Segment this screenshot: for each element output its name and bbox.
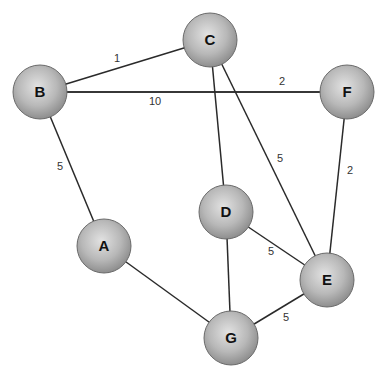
node-label: E bbox=[322, 271, 332, 288]
edge-weight-label: 2 bbox=[347, 164, 353, 176]
node-g: G bbox=[204, 311, 258, 365]
edge-weight-label: 5 bbox=[283, 311, 289, 323]
edges-layer bbox=[40, 40, 347, 338]
node-label: A bbox=[99, 237, 110, 254]
edge-f-e bbox=[327, 92, 347, 280]
node-label: B bbox=[35, 83, 46, 100]
node-label: C bbox=[205, 31, 216, 48]
graph-diagram: 110255255 ABCDEFG bbox=[0, 0, 387, 377]
node-f: F bbox=[320, 65, 374, 119]
edge-weight-label: 1 bbox=[114, 52, 120, 64]
edge-weight-label: 2 bbox=[279, 75, 285, 87]
edge-weight-label: 5 bbox=[268, 245, 274, 257]
node-label: G bbox=[225, 329, 237, 346]
node-label: F bbox=[342, 83, 351, 100]
node-b: B bbox=[13, 65, 67, 119]
edge-weight-label: 5 bbox=[277, 152, 283, 164]
nodes-layer: ABCDEFG bbox=[13, 13, 374, 365]
node-a: A bbox=[77, 219, 131, 273]
node-label: D bbox=[221, 203, 232, 220]
node-d: D bbox=[199, 185, 253, 239]
node-e: E bbox=[300, 253, 354, 307]
node-c: C bbox=[183, 13, 237, 67]
edge-weight-label: 5 bbox=[57, 160, 63, 172]
edge-weight-label: 10 bbox=[149, 95, 161, 107]
